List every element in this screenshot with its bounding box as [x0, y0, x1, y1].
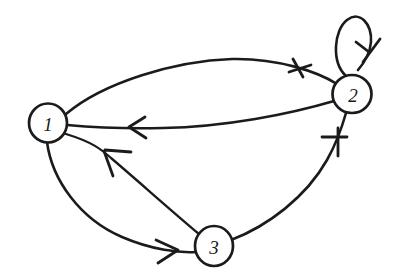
edge-2-to-1-lower-arc[interactable] — [67, 101, 334, 138]
edge-1-to-2-upper-arc[interactable] — [66, 59, 337, 114]
edge-1-to-3-stroke — [47, 142, 196, 252]
arrowhead-1-to-2 — [289, 59, 311, 77]
graph-figure: 1 2 3 — [0, 0, 393, 280]
node-1[interactable]: 1 — [29, 104, 67, 143]
edge-1-to-3[interactable] — [47, 142, 196, 263]
node-2[interactable]: 2 — [333, 75, 372, 113]
edge-3-to-1-stroke — [66, 134, 199, 234]
edge-3-to-1[interactable] — [66, 134, 199, 234]
edge-3-to-2-stroke — [231, 113, 346, 240]
node-1-label: 1 — [43, 114, 53, 135]
edge-3-to-2[interactable] — [231, 113, 347, 240]
directed-graph-canvas: 1 2 3 — [0, 0, 393, 280]
arrowhead-self-loop — [356, 39, 380, 62]
edge-2-to-1-stroke — [67, 101, 334, 128]
self-loop-stroke — [336, 17, 371, 76]
node-3[interactable]: 3 — [195, 226, 233, 266]
node-3-label: 3 — [208, 237, 219, 258]
node-2-label: 2 — [348, 85, 358, 106]
self-loop-node-2[interactable] — [336, 17, 380, 76]
